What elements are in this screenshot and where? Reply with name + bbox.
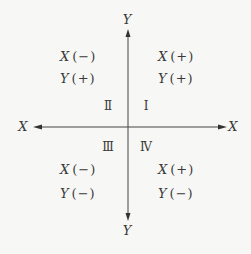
quadrant-i-x-sign: X(+) (158, 50, 194, 64)
quadrant-diagram: Y Y X X X(−) Y(+) Ⅱ X(+) Y(+) Ⅰ Ⅲ X(−) Y… (0, 0, 251, 254)
x-axis-left-label: X (18, 120, 27, 134)
variable-label: X (60, 49, 69, 64)
axes-graphic (0, 0, 251, 254)
quadrant-iv-x-sign: X(+) (158, 163, 194, 177)
sign-label: (+) (170, 71, 194, 86)
variable-label: X (158, 49, 167, 64)
quadrant-iii-y-sign: Y(−) (60, 187, 96, 201)
x-axis-left-arrow-icon (33, 125, 42, 130)
variable-label: Y (158, 186, 167, 201)
variable-label: Y (60, 186, 69, 201)
y-axis-up-arrow-icon (126, 29, 131, 37)
variable-label: X (158, 162, 167, 177)
variable-label: Y (158, 71, 167, 86)
sign-label: (−) (72, 186, 96, 201)
quadrant-i-y-sign: Y(+) (158, 72, 194, 86)
quadrant-ii-y-sign: Y(+) (60, 72, 96, 86)
sign-label: (−) (72, 162, 96, 177)
x-axis-right-arrow-icon (218, 125, 227, 130)
y-axis-down-arrow-icon (126, 213, 131, 221)
sign-label: (+) (170, 162, 194, 177)
variable-label: X (60, 162, 69, 177)
quadrant-ii-numeral: Ⅱ (104, 99, 112, 113)
quadrant-iii-x-sign: X(−) (60, 163, 96, 177)
sign-label: (+) (72, 71, 96, 86)
quadrant-iii-numeral: Ⅲ (102, 140, 114, 154)
quadrant-iv-numeral: Ⅳ (140, 140, 152, 154)
quadrant-i-numeral: Ⅰ (144, 99, 149, 113)
variable-label: Y (60, 71, 69, 86)
sign-label: (−) (170, 186, 194, 201)
quadrant-ii-x-sign: X(−) (60, 50, 96, 64)
quadrant-iv-y-sign: Y(−) (158, 187, 194, 201)
x-axis-right-label: X (228, 120, 237, 134)
y-axis-top-label: Y (123, 13, 132, 27)
y-axis-bottom-label: Y (123, 224, 132, 238)
sign-label: (−) (72, 49, 96, 64)
sign-label: (+) (170, 49, 194, 64)
